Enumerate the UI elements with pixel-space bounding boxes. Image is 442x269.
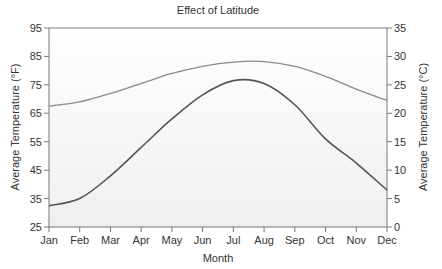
x-tick-label: Jul xyxy=(226,234,240,246)
y-axis-title-right: Average Temperature (°C) xyxy=(417,63,429,191)
y-tick-label-left: 25 xyxy=(30,221,42,233)
y-tick-label-right: 35 xyxy=(394,22,406,34)
x-tick-label: Sep xyxy=(285,234,305,246)
x-tick-label: May xyxy=(162,234,183,246)
y-tick-label-left: 45 xyxy=(30,164,42,176)
y-tick-label-right: 15 xyxy=(394,136,406,148)
chart-title: Effect of Latitude xyxy=(177,4,259,16)
y-tick-label-right: 10 xyxy=(394,164,406,176)
x-tick-label: Dec xyxy=(377,234,397,246)
x-tick-label: Feb xyxy=(70,234,89,246)
x-axis-title: Month xyxy=(203,252,234,264)
y-tick-label-left: 85 xyxy=(30,50,42,62)
x-tick-label: Jun xyxy=(194,234,212,246)
x-tick-label: Nov xyxy=(346,234,366,246)
x-tick-label: Apr xyxy=(133,234,150,246)
y-tick-label-right: 5 xyxy=(394,193,400,205)
y-tick-label-left: 35 xyxy=(30,193,42,205)
x-tick-label: Oct xyxy=(317,234,334,246)
y-tick-label-right: 20 xyxy=(394,107,406,119)
y-tick-label-right: 0 xyxy=(394,221,400,233)
latitude-temperature-chart: 253545556575859505101520253035JanFebMarA… xyxy=(0,0,442,269)
y-tick-label-left: 65 xyxy=(30,107,42,119)
y-tick-label-right: 25 xyxy=(394,79,406,91)
x-tick-label: Jan xyxy=(40,234,58,246)
y-tick-label-right: 30 xyxy=(394,50,406,62)
x-tick-label: Mar xyxy=(101,234,120,246)
y-tick-label-left: 75 xyxy=(30,79,42,91)
plot-area xyxy=(49,28,387,227)
y-tick-label-left: 95 xyxy=(30,22,42,34)
y-tick-label-left: 55 xyxy=(30,136,42,148)
y-axis-title-left: Average Temperature (°F) xyxy=(9,64,21,191)
x-tick-label: Aug xyxy=(254,234,274,246)
